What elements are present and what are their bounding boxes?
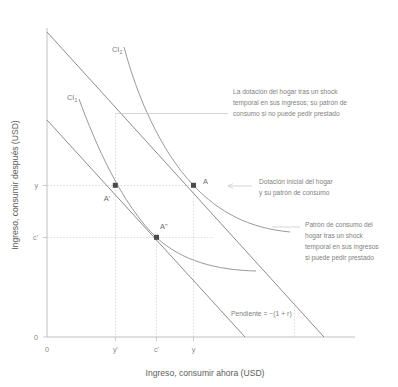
annotation-shock-with-borrow: Patrón de consumo del hogar tras un shoc…	[305, 221, 379, 262]
annotation-shock-no-borrow-line3: consumo si no puede pedir prestado	[233, 110, 340, 118]
annotation-shock-with-borrow-line2: hogar tras un shock	[305, 232, 364, 240]
budget-line-post-shock	[47, 120, 245, 337]
curve-label-ci2-sub: 2	[119, 49, 122, 55]
x-axis-title: Ingreso, consumir ahora (USD)	[146, 368, 265, 378]
y-tick-labels-group: y c' 0	[33, 181, 39, 342]
annotation-slope-label: Pendiente = −(1 + r)	[231, 310, 292, 318]
curve-label-ci2-text: CI	[112, 45, 119, 54]
x-tick-label-y: y	[192, 345, 196, 354]
curve-labels-group: CI2 CI1	[67, 45, 122, 103]
data-points-group	[113, 183, 196, 240]
annotation-shock-no-borrow: La dotación del hogar tras un shock temp…	[233, 88, 347, 118]
y-tick-label-y: y	[34, 181, 38, 190]
y-tick-label-cprime: c'	[33, 233, 39, 242]
x-tick-label-zero: 0	[45, 345, 49, 354]
point-label-a-double-prime: A''	[160, 222, 168, 231]
curve-label-ci1-sub: 1	[74, 97, 77, 103]
point-marker-a-prime[interactable]	[113, 183, 118, 188]
annotation-initial-endowment-line2: y su patrón de consumo	[259, 189, 330, 197]
indifference-curve-ci2	[124, 47, 290, 232]
y-axis-title: Ingreso, consumir después (USD)	[10, 120, 20, 250]
curve-label-ci2: CI2	[112, 45, 122, 55]
x-tick-label-yprime: y'	[113, 345, 119, 354]
point-label-a-prime: A'	[104, 194, 111, 203]
point-marker-a[interactable]	[191, 183, 196, 188]
y-tick-label-zero: 0	[34, 333, 38, 342]
curve-label-ci1-text: CI	[67, 93, 74, 102]
annotation-shock-with-borrow-line3: temporal en sus ingresos	[305, 243, 379, 251]
indifference-curves-group	[79, 47, 290, 271]
figure-container: A' A A'' CI2 CI1 La dotación del hogar t…	[0, 0, 398, 387]
annotation-shock-with-borrow-line4: si puede pedir prestado	[305, 254, 374, 262]
chart-svg: A' A A'' CI2 CI1 La dotación del hogar t…	[0, 0, 398, 387]
annotation-shock-no-borrow-line1: La dotación del hogar tras un shock	[233, 88, 338, 96]
annotation-shock-with-borrow-line1: Patrón de consumo del	[305, 221, 373, 228]
point-marker-a-double-prime[interactable]	[154, 235, 159, 240]
tick-marks-group	[43, 186, 194, 342]
x-tick-labels-group: 0 y' c' y	[45, 345, 196, 354]
annotation-shock-no-borrow-line2: temporal en sus ingresos; su patrón de	[233, 99, 347, 107]
x-tick-label-cprime: c'	[154, 345, 160, 354]
curve-label-ci1: CI1	[67, 93, 77, 103]
annotation-initial-endowment-line1: Dotación inicial del hogar	[259, 178, 333, 186]
annotation-initial-endowment: Dotación inicial del hogar y su patrón d…	[259, 178, 333, 197]
guide-lines-group	[47, 113, 295, 337]
point-label-a: A	[203, 177, 208, 186]
